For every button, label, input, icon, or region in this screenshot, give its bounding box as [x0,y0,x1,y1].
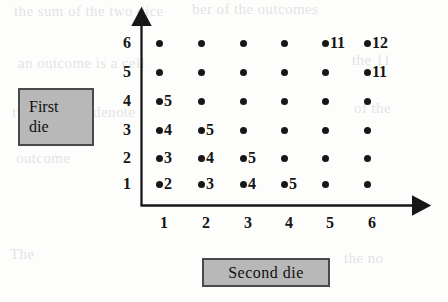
x-tick-2: 2 [202,215,210,231]
data-point-2-1 [198,181,205,188]
data-point-2-5 [198,69,205,76]
data-point-5-2 [322,155,329,162]
data-point-4-4 [281,98,288,105]
x-tick-4: 4 [285,215,293,231]
data-point-3-5 [240,69,247,76]
x-tick-1: 1 [160,215,168,231]
y-tick-4: 4 [123,93,131,109]
second-die-axis-label-box: Second die [202,258,330,287]
data-point-3-1 [240,181,247,188]
sum-label-2-3: 5 [206,122,214,138]
sum-label-1-4: 5 [164,93,172,109]
first-die-label-line2: die [29,117,58,137]
data-point-5-4 [322,98,329,105]
data-point-1-5 [156,69,163,76]
data-point-5-1 [322,181,329,188]
data-point-2-3 [198,127,205,134]
sum-label-5-6: 11 [330,35,345,51]
figure-page: the sum of the two diceber of the outcom… [0,0,448,302]
data-point-1-1 [156,181,163,188]
sum-label-3-1: 4 [248,176,256,192]
x-tick-6: 6 [368,215,376,231]
y-tick-1: 1 [123,176,131,192]
sum-label-3-2: 5 [248,150,256,166]
data-point-6-5 [364,69,371,76]
sum-label-6-6: 12 [372,35,388,51]
x-tick-5: 5 [326,215,334,231]
x-tick-3: 3 [244,215,252,231]
y-tick-3: 3 [123,122,131,138]
data-point-2-4 [198,98,205,105]
data-point-2-2 [198,155,205,162]
data-point-3-4 [240,98,247,105]
y-tick-5: 5 [123,64,131,80]
data-point-4-2 [281,155,288,162]
data-point-6-4 [364,98,371,105]
dice-outcome-plot: 2345345455111112 123456 123456 [0,0,448,302]
sum-label-1-3: 4 [164,122,172,138]
y-tick-2: 2 [123,150,131,166]
data-point-6-2 [364,155,371,162]
sum-label-1-2: 3 [164,150,172,166]
data-point-6-3 [364,127,371,134]
data-point-1-3 [156,127,163,134]
data-point-1-2 [156,155,163,162]
y-tick-6: 6 [123,35,131,51]
data-point-5-5 [322,69,329,76]
sum-label-6-5: 11 [372,64,387,80]
sum-label-2-1: 3 [206,176,214,192]
data-point-4-6 [281,40,288,47]
data-point-5-6 [322,40,329,47]
sum-label-4-1: 5 [289,176,297,192]
sum-label-1-1: 2 [164,176,172,192]
data-point-1-4 [156,98,163,105]
data-point-3-3 [240,127,247,134]
data-point-2-6 [198,40,205,47]
data-point-3-2 [240,155,247,162]
data-point-6-1 [364,181,371,188]
data-point-1-6 [156,40,163,47]
sum-label-2-2: 4 [206,150,214,166]
data-point-4-5 [281,69,288,76]
data-point-6-6 [364,40,371,47]
data-point-3-6 [240,40,247,47]
data-point-4-3 [281,127,288,134]
first-die-axis-label-box: First die [18,88,94,146]
data-point-4-1 [281,181,288,188]
first-die-label-line1: First [29,97,58,117]
data-point-5-3 [322,127,329,134]
second-die-label: Second die [228,263,304,283]
